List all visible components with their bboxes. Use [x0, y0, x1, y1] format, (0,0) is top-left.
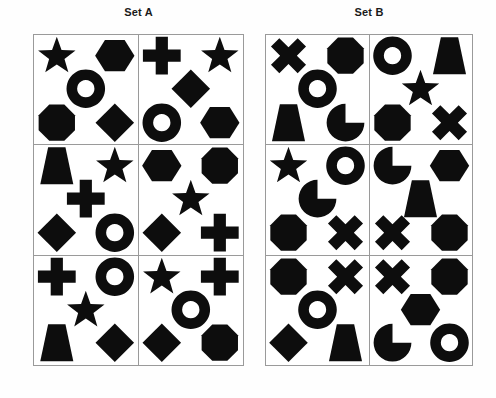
set-b-grid: [265, 34, 473, 366]
pacman-icon: [372, 323, 413, 362]
ring-icon: [141, 103, 183, 142]
octagon-icon: [372, 103, 413, 142]
set-a-block: Set A: [33, 6, 244, 366]
cross-icon: [199, 213, 241, 252]
diamond-icon: [36, 213, 78, 252]
set-b-cell-r3c2[interactable]: [370, 256, 473, 365]
octagon-icon: [268, 213, 309, 252]
octagon-icon: [429, 213, 470, 252]
set-a-cell-r2c2[interactable]: [139, 145, 243, 254]
set-b-block: Set B: [265, 6, 473, 366]
set-a-title: Set A: [33, 6, 244, 20]
saltire-icon: [372, 213, 413, 252]
set-a-cell-r3c1[interactable]: [34, 256, 138, 365]
trapezoid-icon: [268, 103, 309, 142]
set-a-cell-r1c1[interactable]: [34, 35, 138, 144]
set-a-cell-r2c1[interactable]: [34, 145, 138, 254]
pacman-icon: [325, 103, 366, 142]
set-b-cell-r3c1[interactable]: [266, 256, 369, 365]
trapezoid-icon: [36, 323, 78, 362]
diamond-icon: [94, 323, 136, 362]
set-a-cell-r1c2[interactable]: [139, 35, 243, 144]
diamond-icon: [141, 323, 183, 362]
set-b-cell-r1c1[interactable]: [266, 35, 369, 144]
set-b-cell-r2c1[interactable]: [266, 145, 369, 254]
set-a-cell-r3c2[interactable]: [139, 256, 243, 365]
ring-icon: [429, 323, 470, 362]
ring-icon: [94, 213, 136, 252]
trapezoid-icon: [325, 323, 366, 362]
set-a-grid: [33, 34, 244, 366]
set-b-cell-r2c2[interactable]: [370, 145, 473, 254]
set-b-title: Set B: [265, 6, 473, 20]
octagon-icon: [199, 323, 241, 362]
set-b-cell-r1c2[interactable]: [370, 35, 473, 144]
hexagon-icon: [199, 103, 241, 142]
diamond-icon: [94, 103, 136, 142]
octagon-icon: [36, 103, 78, 142]
saltire-icon: [429, 103, 470, 142]
diamond-icon: [141, 213, 183, 252]
saltire-icon: [325, 213, 366, 252]
diamond-icon: [268, 323, 309, 362]
figure-canvas: Set A Set B: [0, 0, 496, 398]
